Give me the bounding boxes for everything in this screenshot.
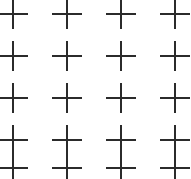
grid-diagram bbox=[0, 0, 191, 179]
figure-root bbox=[0, 0, 191, 179]
figure-background bbox=[0, 0, 191, 179]
